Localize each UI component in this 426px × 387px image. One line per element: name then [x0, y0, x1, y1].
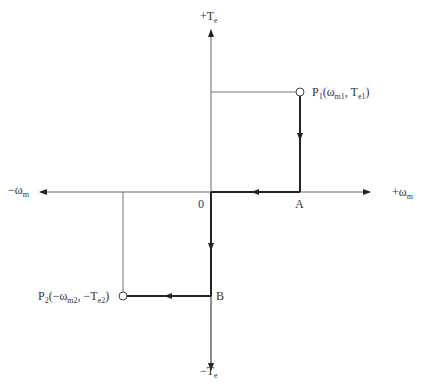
diagram-canvas: [0, 0, 426, 387]
p2-label: P2(−ωm2, −Te2): [38, 290, 109, 305]
x-axis-positive-label: +ωm: [392, 186, 413, 201]
p1-label: P1(ωm1, Te1): [312, 86, 370, 101]
y-axis-positive-label: +Te: [200, 10, 218, 25]
point-b-label: B: [216, 290, 224, 302]
p2-marker: [119, 292, 127, 300]
y-axis-negative-label: −Te: [200, 365, 218, 380]
origin-label: 0: [198, 198, 204, 210]
point-a-label: A: [295, 198, 304, 210]
x-axis-negative-label: −ωm: [8, 184, 29, 199]
p1-marker: [296, 88, 304, 96]
axes: [40, 30, 370, 370]
